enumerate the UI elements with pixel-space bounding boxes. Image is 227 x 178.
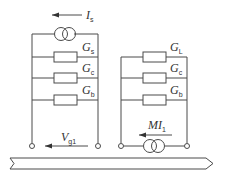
svg-text:Gs: Gs [82,40,95,55]
label-vg1: Vg1 [61,130,76,146]
current-arrow-is [52,13,82,18]
svg-text:GL: GL [170,40,183,55]
conductance-gc: Gc [32,61,98,83]
svg-text:Gc: Gc [82,61,95,76]
current-source-icon-right [144,140,165,153]
current-source-icon [55,28,76,41]
right-circuit: GL Gc Gb MI1 [119,40,190,153]
terminal-left-2 [119,144,124,149]
terminal-right-1 [96,144,101,149]
terminal-right-2 [185,144,190,149]
label-is: Is [85,8,94,23]
conductance-gc-right: Gc [121,61,187,83]
left-circuit: Is Gs Gc Gb [30,8,101,149]
circuit-diagram: Is Gs Gc Gb [0,0,227,178]
svg-text:Gc: Gc [170,61,183,76]
conductance-gb: Gb [32,83,98,105]
current-arrow-mi1 [139,133,172,138]
label-mi1: MI1 [147,118,166,133]
voltage-arrow-vg1 [45,144,88,149]
signal-flow-arrow [10,158,213,169]
conductance-gl: GL [121,40,187,62]
conductance-gb-right: Gb [121,83,187,105]
svg-text:Gb: Gb [170,83,183,98]
svg-text:Gb: Gb [82,83,95,98]
terminal-left-1 [30,144,35,149]
conductance-gs: Gs [32,40,98,62]
